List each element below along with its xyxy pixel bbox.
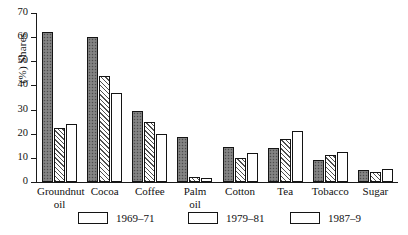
legend-swatch-1969-71 bbox=[78, 212, 108, 224]
bars-layer bbox=[37, 13, 398, 182]
y-tick-label-20: 20 bbox=[18, 127, 29, 138]
bar bbox=[247, 153, 258, 182]
bar bbox=[156, 134, 167, 182]
bar bbox=[144, 122, 155, 182]
bar bbox=[268, 148, 279, 182]
bar bbox=[370, 172, 381, 182]
x-axis-label: Coffee bbox=[127, 185, 172, 198]
legend-item-1969-71: 1969–71 bbox=[78, 212, 155, 224]
legend-label-1979-81: 1979–81 bbox=[226, 212, 265, 224]
bar bbox=[111, 93, 122, 182]
bar bbox=[42, 32, 53, 182]
bar bbox=[132, 111, 143, 182]
bar bbox=[382, 169, 393, 182]
y-tick-10: 10 bbox=[31, 158, 36, 159]
bar-group bbox=[218, 13, 263, 182]
bar-group bbox=[263, 13, 308, 182]
x-axis-line bbox=[36, 182, 398, 183]
y-tick-20: 20 bbox=[31, 134, 36, 135]
legend-item-1987-9: 1987–9 bbox=[290, 212, 361, 224]
bar bbox=[313, 160, 324, 182]
bar bbox=[189, 177, 200, 182]
bar-group bbox=[127, 13, 172, 182]
x-axis-label: Palm oil bbox=[172, 185, 217, 210]
x-axis-label: Groundnut oil bbox=[37, 185, 82, 210]
plot-area: 010203040506070 bbox=[36, 13, 398, 183]
y-tick-70: 70 bbox=[31, 13, 36, 14]
legend-swatch-1979-81 bbox=[188, 212, 218, 224]
y-tick-label-50: 50 bbox=[18, 54, 29, 65]
y-tick-label-70: 70 bbox=[18, 6, 29, 17]
y-tick-60: 60 bbox=[31, 37, 36, 38]
y-tick-0: 0 bbox=[31, 182, 36, 183]
legend-swatch-1987-9 bbox=[290, 212, 320, 224]
y-tick-50: 50 bbox=[31, 61, 36, 62]
y-tick-label-60: 60 bbox=[18, 30, 29, 41]
y-tick-label-0: 0 bbox=[23, 175, 28, 186]
bar-chart-figure: (%) Shares 010203040506070 Groundnut oil… bbox=[0, 0, 408, 235]
bar bbox=[54, 128, 65, 182]
x-axis-label: Tea bbox=[263, 185, 308, 198]
bar bbox=[358, 170, 369, 182]
bar-group bbox=[172, 13, 217, 182]
bar bbox=[235, 158, 246, 182]
bar-group bbox=[37, 13, 82, 182]
x-axis-label: Sugar bbox=[353, 185, 398, 198]
bar bbox=[177, 137, 188, 182]
bar-group bbox=[353, 13, 398, 182]
y-tick-label-40: 40 bbox=[18, 78, 29, 89]
x-axis-label: Cotton bbox=[218, 185, 263, 198]
x-axis-label: Cocoa bbox=[82, 185, 127, 198]
bar bbox=[337, 152, 348, 182]
bar bbox=[201, 178, 212, 182]
x-axis-label: Tobacco bbox=[308, 185, 353, 198]
bar bbox=[280, 139, 291, 182]
y-tick-label-30: 30 bbox=[18, 103, 29, 114]
bar-group bbox=[82, 13, 127, 182]
chart-legend: 1969–71 1979–81 1987–9 bbox=[0, 212, 408, 232]
legend-item-1979-81: 1979–81 bbox=[188, 212, 265, 224]
bar bbox=[292, 131, 303, 182]
y-tick-label-10: 10 bbox=[18, 151, 29, 162]
legend-label-1969-71: 1969–71 bbox=[116, 212, 155, 224]
bar bbox=[66, 124, 77, 182]
bar bbox=[223, 147, 234, 182]
bar bbox=[87, 37, 98, 182]
bar bbox=[99, 76, 110, 182]
y-tick-40: 40 bbox=[31, 85, 36, 86]
legend-label-1987-9: 1987–9 bbox=[328, 212, 361, 224]
bar-group bbox=[308, 13, 353, 182]
y-tick-30: 30 bbox=[31, 110, 36, 111]
bar bbox=[325, 155, 336, 182]
